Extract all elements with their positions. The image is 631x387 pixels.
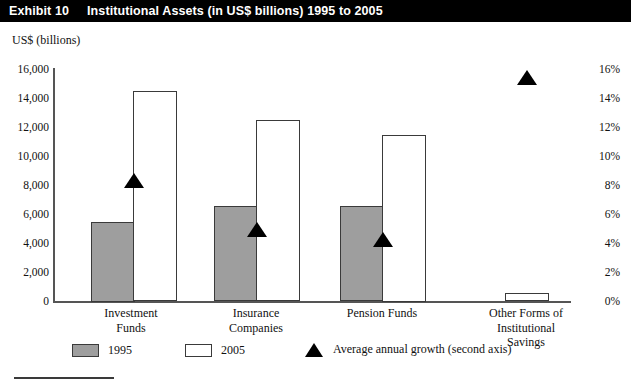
y2-tick-8pct: 8% bbox=[580, 180, 620, 192]
y2-tick-6pct: 6% bbox=[580, 209, 620, 221]
y-axis-line bbox=[53, 68, 55, 303]
y-tick-2000: 2,000 bbox=[5, 267, 49, 279]
y2-tick-2pct: 2% bbox=[580, 267, 620, 279]
footnote-rule bbox=[14, 377, 114, 379]
bar-1995-3 bbox=[340, 206, 384, 301]
y-tick-8000: 8,000 bbox=[5, 180, 49, 192]
y2-tick-14pct: 14% bbox=[580, 93, 620, 105]
y-tick-4000: 4,000 bbox=[5, 238, 49, 250]
legend-label-average-annual-growth: Average annual growth (second axis) bbox=[333, 342, 511, 357]
category-label-investment-funds: Investment Funds bbox=[83, 306, 179, 335]
x-axis-line bbox=[53, 301, 571, 303]
legend-swatch-2005-icon bbox=[185, 344, 212, 357]
legend-item-average-annual-growth: Average annual growth (second axis) bbox=[305, 342, 511, 357]
growth-marker-2 bbox=[247, 222, 267, 237]
y-tick-10000: 10,000 bbox=[5, 151, 49, 163]
y-axis-unit-label: US$ (billions) bbox=[12, 33, 80, 48]
category-label-insurance-companies: Insurance Companies bbox=[206, 306, 306, 335]
y2-tick-10pct: 10% bbox=[580, 151, 620, 163]
category-label-pension-funds: Pension Funds bbox=[330, 306, 434, 321]
bar-2005-4 bbox=[505, 293, 549, 302]
bar-2005-3 bbox=[382, 135, 426, 301]
exhibit-number: Exhibit 10 bbox=[9, 4, 69, 18]
bar-1995-1 bbox=[91, 222, 135, 301]
y-tick-16000: 16,000 bbox=[5, 64, 49, 76]
exhibit-title: Institutional Assets (in US$ billions) 1… bbox=[87, 4, 383, 18]
growth-marker-1 bbox=[124, 173, 144, 188]
legend-label-1995: 1995 bbox=[108, 343, 132, 358]
chart-plot-area: 16,000 14,000 12,000 10,000 8,000 6,000 … bbox=[0, 0, 631, 387]
legend-item-1995: 1995 bbox=[72, 343, 132, 358]
y-tick-14000: 14,000 bbox=[5, 93, 49, 105]
exhibit-title-bar: Exhibit 10 Institutional Assets (in US$ … bbox=[0, 0, 631, 22]
growth-marker-3 bbox=[373, 232, 393, 247]
y2-tick-4pct: 4% bbox=[580, 238, 620, 250]
y-tick-0: 0 bbox=[5, 296, 49, 308]
growth-marker-4 bbox=[517, 70, 537, 85]
y2-tick-12pct: 12% bbox=[580, 122, 620, 134]
legend-item-2005: 2005 bbox=[185, 343, 245, 358]
legend-triangle-icon bbox=[305, 343, 323, 357]
y-tick-12000: 12,000 bbox=[5, 122, 49, 134]
bar-2005-1 bbox=[133, 91, 177, 302]
chart-legend: 1995 2005 Average annual growth (second … bbox=[0, 341, 631, 363]
bar-2005-2 bbox=[256, 120, 300, 302]
legend-swatch-1995-icon bbox=[72, 344, 99, 357]
legend-label-2005: 2005 bbox=[221, 343, 245, 358]
y2-tick-0pct: 0% bbox=[580, 296, 620, 308]
y-tick-6000: 6,000 bbox=[5, 209, 49, 221]
bar-1995-2 bbox=[214, 206, 258, 301]
y2-tick-16pct: 16% bbox=[580, 64, 620, 76]
